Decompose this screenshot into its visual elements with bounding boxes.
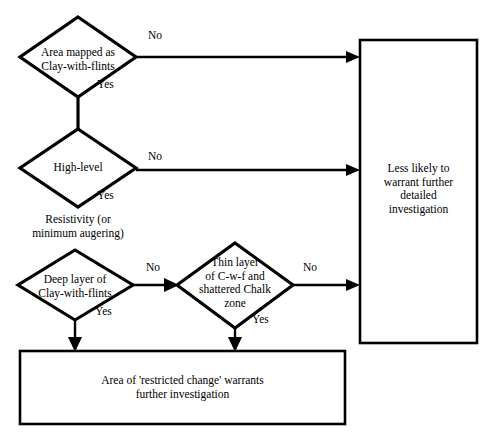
arrowhead-d2-no xyxy=(346,164,360,176)
arrowhead-d1-no xyxy=(346,51,360,63)
edge-label-no-2: No xyxy=(148,150,162,162)
edge-label-yes-4: Yes xyxy=(252,313,269,325)
edge-label-yes-3: Yes xyxy=(95,305,112,317)
arrowhead-d3-no xyxy=(164,278,179,292)
decision-node-deep-layer[interactable] xyxy=(18,250,133,320)
decision-node-high-level[interactable] xyxy=(20,129,136,207)
annotation-resistivity: Resistivity (or minimum augering) xyxy=(8,212,148,240)
outcome-box-restricted-change[interactable] xyxy=(20,351,345,424)
annotation-text-line: Resistivity (or xyxy=(8,212,148,226)
decision-node-area-mapped[interactable] xyxy=(20,17,136,97)
flowchart-canvas: Area mapped as Clay-with-flints High-lev… xyxy=(0,0,489,443)
decision-node-thin-layer[interactable] xyxy=(177,243,293,328)
edge-label-no-1: No xyxy=(148,29,162,41)
edge-label-yes-2: Yes xyxy=(97,189,114,201)
edge-label-no-3: No xyxy=(146,261,160,273)
edge-label-yes-1: Yes xyxy=(97,78,114,90)
edge-label-no-4: No xyxy=(303,261,317,273)
arrowhead-d4-no xyxy=(346,279,360,291)
annotation-text-line: minimum augering) xyxy=(8,226,148,240)
outcome-box-less-likely[interactable] xyxy=(360,40,477,343)
